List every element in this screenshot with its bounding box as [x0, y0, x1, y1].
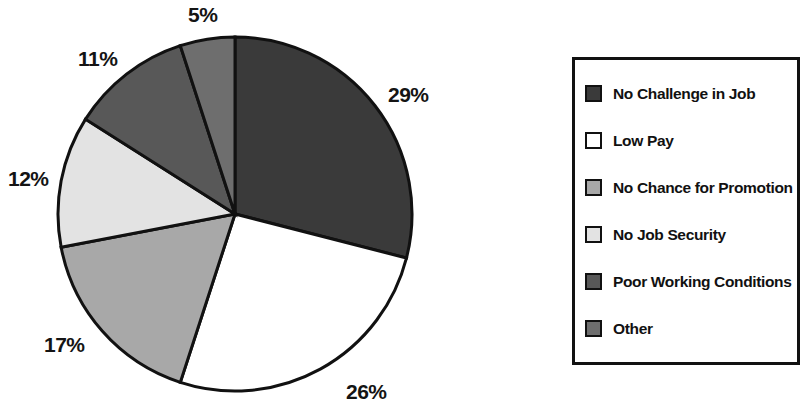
legend-box: No Challenge in JobLow PayNo Chance for …: [572, 57, 800, 365]
pie-value-label: 29%: [388, 84, 429, 105]
legend-item[interactable]: Other: [585, 305, 797, 352]
legend-item-label: No Chance for Promotion: [613, 180, 793, 196]
legend-list: No Challenge in JobLow PayNo Chance for …: [575, 60, 797, 362]
legend-item[interactable]: No Job Security: [585, 211, 797, 258]
pie-value-label: 12%: [8, 168, 49, 189]
legend-color-swatch: [585, 320, 602, 337]
pie-value-label: 11%: [78, 48, 117, 69]
pie-value-label: 5%: [188, 4, 217, 25]
legend-color-swatch: [585, 273, 602, 290]
legend-item[interactable]: Low Pay: [585, 117, 797, 164]
legend-item-label: Low Pay: [613, 133, 673, 149]
legend-item-label: No Challenge in Job: [613, 86, 755, 102]
legend-color-swatch: [585, 226, 602, 243]
legend-item[interactable]: No Chance for Promotion: [585, 164, 797, 211]
legend-item-label: Other: [613, 321, 653, 337]
legend-item[interactable]: No Challenge in Job: [585, 70, 797, 117]
pie-value-label: 26%: [346, 381, 387, 402]
pie-slice-group: [58, 37, 412, 391]
legend-item-label: Poor Working Conditions: [613, 274, 792, 290]
legend-color-swatch: [585, 85, 602, 102]
pie-plot-area: 29%26%17%12%11%5%: [0, 0, 480, 410]
pie-chart-figure: 29%26%17%12%11%5% No Challenge in JobLow…: [0, 0, 808, 410]
legend-item-label: No Job Security: [613, 227, 726, 243]
legend-color-swatch: [585, 179, 602, 196]
legend-item[interactable]: Poor Working Conditions: [585, 258, 797, 305]
legend-color-swatch: [585, 132, 602, 149]
pie-value-label: 17%: [44, 334, 85, 355]
